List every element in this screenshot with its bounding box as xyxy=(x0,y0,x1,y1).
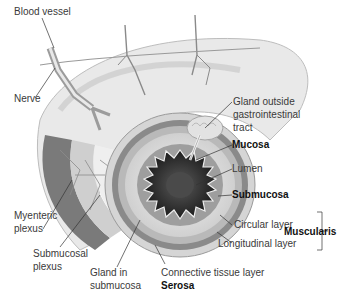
label-gland-outside-line1: Gland outside xyxy=(233,95,295,108)
label-longitudinal-layer: Longitudinal layer xyxy=(218,237,296,250)
label-blood-vessel: Blood vessel xyxy=(14,5,71,18)
label-lumen: Lumen xyxy=(232,162,263,175)
label-serosa: Serosa xyxy=(161,279,194,292)
lumen-center xyxy=(166,172,194,198)
label-connective-tissue-layer: Connective tissue layer xyxy=(161,266,264,279)
label-gland-outside-line2: gastrointestinal xyxy=(233,108,300,121)
label-submucosa: Submucosa xyxy=(232,188,289,201)
label-gland-outside-line3: tract xyxy=(233,121,252,134)
label-muscularis: Muscularis xyxy=(284,225,336,238)
label-gland-in-submucosa-line2: submucosa xyxy=(90,279,141,292)
label-submucosal-line2: plexus xyxy=(33,260,62,273)
label-nerve: Nerve xyxy=(14,92,41,105)
label-gland-in-submucosa-line1: Gland in xyxy=(90,266,127,279)
tube-cross-section xyxy=(105,113,255,257)
label-submucosal-line1: Submucosal xyxy=(33,247,88,260)
gi-tract-diagram: Blood vessel Nerve Gland outside gastroi… xyxy=(0,0,343,304)
label-myenteric-line1: Myenteric xyxy=(14,209,57,222)
label-myenteric-line2: plexus xyxy=(14,222,43,235)
label-mucosa: Mucosa xyxy=(232,138,269,151)
